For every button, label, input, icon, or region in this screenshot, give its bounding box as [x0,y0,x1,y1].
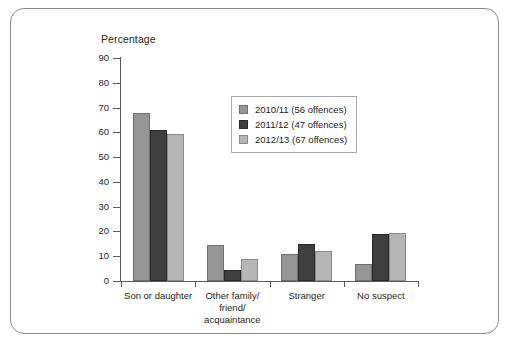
bar [207,245,224,281]
y-axis-tick [113,58,121,59]
x-axis-category-label: No suspect [307,290,456,302]
bar [167,134,184,281]
y-axis-tick [113,231,121,232]
bar [315,251,332,281]
y-axis-tick [113,83,121,84]
y-axis-tick [113,157,121,158]
bar [281,254,298,281]
x-axis-category-line: friend/ [158,302,307,314]
legend-swatch-icon [239,120,248,129]
y-axis-tick [113,281,121,282]
legend-swatch-icon [239,135,248,144]
y-axis-tick [113,182,121,183]
x-axis-tick [418,281,419,287]
bar-chart: Percentage 0102030405060708090 Son or da… [0,0,522,353]
legend-label: 2012/13 (67 offences) [255,134,347,145]
legend-swatch-icon [239,105,248,114]
y-axis-tick-label: 40 [83,176,109,187]
legend-item[interactable]: 2010/11 (56 offences) [239,102,347,117]
x-axis-tick [270,281,271,287]
y-axis-title: Percentage [101,33,156,45]
legend-item[interactable]: 2012/13 (67 offences) [239,132,347,147]
y-axis-tick-label: 80 [83,77,109,88]
bar [372,234,389,281]
y-axis-tick-label: 70 [83,102,109,113]
legend-item[interactable]: 2011/12 (47 offences) [239,117,347,132]
bar [133,113,150,281]
y-axis-tick-label: 10 [83,250,109,261]
plot-area [121,58,418,281]
x-axis-tick [344,281,345,287]
y-axis-tick [113,108,121,109]
x-axis-tick [121,281,122,287]
legend-label: 2011/12 (47 offences) [255,119,347,130]
y-axis-tick-label: 0 [83,275,109,286]
bar [241,259,258,281]
bar [355,264,372,281]
legend-label: 2010/11 (56 offences) [255,104,347,115]
x-axis-tick [195,281,196,287]
x-axis-category-line: No suspect [307,290,456,302]
y-axis-tick [113,256,121,257]
y-axis-tick-label: 30 [83,201,109,212]
bar [389,233,406,281]
y-axis-tick-label: 90 [83,52,109,63]
bar [224,270,241,281]
y-axis-tick [113,207,121,208]
chart-legend: 2010/11 (56 offences)2011/12 (47 offence… [231,96,357,153]
bar [150,130,167,281]
y-axis-tick-label: 60 [83,126,109,137]
y-axis-tick [113,132,121,133]
y-axis-tick-label: 50 [83,151,109,162]
bar [298,244,315,281]
x-axis-category-line: acquaintance [158,314,307,326]
y-axis-tick-label: 20 [83,225,109,236]
